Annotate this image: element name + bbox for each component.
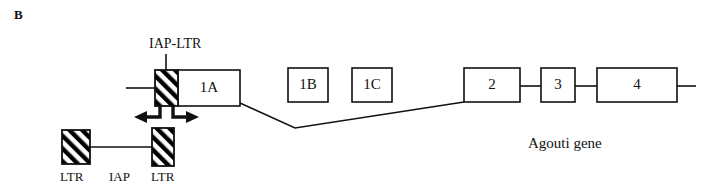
exon-label-1A: 1A: [178, 80, 240, 95]
ltr-box-right-lower: [152, 128, 174, 166]
iap-label: IAP: [109, 170, 130, 183]
exon-label-1B: 1B: [288, 77, 328, 92]
ltr-left-label: LTR: [60, 170, 83, 183]
bidirectional-transcription-arrows: [134, 106, 199, 123]
agouti-gene-label: Agouti gene: [528, 136, 602, 151]
gene-structure-diagram: [0, 0, 726, 196]
exon-label-4: 4: [597, 77, 677, 92]
exon-label-2: 2: [464, 77, 520, 92]
ltr-right-label: LTR: [151, 170, 174, 183]
ltr-box-left-lower: [62, 130, 90, 164]
figure-panel-b: B IAP-LTR Agouti gene LTR IAP LTR 1A1B1C…: [0, 0, 726, 196]
panel-label: B: [14, 8, 23, 21]
ltr-box-inserted: [155, 70, 178, 106]
exon-label-3: 3: [541, 77, 575, 92]
iap-ltr-label: IAP-LTR: [149, 37, 201, 51]
exon-label-1C: 1C: [352, 77, 392, 92]
splice-line-1A-to-2: [240, 102, 464, 128]
